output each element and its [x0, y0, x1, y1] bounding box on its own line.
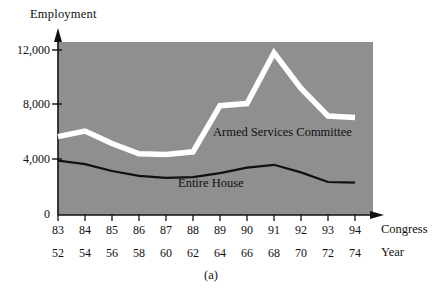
x-tick-year-64: 64 [207, 246, 233, 261]
y-axis [54, 28, 62, 215]
x-tick-year-56: 56 [99, 246, 125, 261]
x-tick-year-54: 54 [72, 246, 98, 261]
x-tick-congress-85: 85 [99, 223, 125, 238]
x-tick-congress-86: 86 [126, 223, 152, 238]
x-tick-year-62: 62 [180, 246, 206, 261]
y-axis-ticks [52, 50, 62, 159]
series-label-entire-house: Entire House [178, 176, 244, 191]
x-axis-ticks [58, 215, 355, 221]
x-tick-year-58: 58 [126, 246, 152, 261]
x-tick-year-66: 66 [234, 246, 260, 261]
x-tick-congress-84: 84 [72, 223, 98, 238]
x-tick-congress-83: 83 [45, 223, 71, 238]
x-tick-year-72: 72 [315, 246, 341, 261]
y-tick-label-12000: 12,000 [0, 43, 50, 58]
x-tick-congress-89: 89 [207, 223, 233, 238]
y-tick-label-8000: 8,000 [0, 97, 50, 112]
figure-container: Employment [0, 0, 440, 294]
x-axis [58, 211, 384, 219]
x-tick-congress-93: 93 [315, 223, 341, 238]
y-tick-label-0: 0 [0, 207, 50, 222]
x-tick-congress-94: 94 [342, 223, 368, 238]
y-tick-label-4000: 4,000 [0, 152, 50, 167]
x-tick-congress-87: 87 [153, 223, 179, 238]
x-tick-year-74: 74 [342, 246, 368, 261]
x-tick-year-70: 70 [288, 246, 314, 261]
x-axis-title-year: Year [381, 245, 404, 260]
x-tick-congress-90: 90 [234, 223, 260, 238]
x-tick-congress-88: 88 [180, 223, 206, 238]
x-tick-year-52: 52 [45, 246, 71, 261]
x-axis-title-congress: Congress [381, 222, 428, 237]
series-label-armed-services: Armed Services Committee [213, 125, 352, 140]
figure-caption: (a) [204, 268, 218, 283]
x-tick-congress-91: 91 [261, 223, 287, 238]
x-tick-congress-92: 92 [288, 223, 314, 238]
x-tick-year-60: 60 [153, 246, 179, 261]
x-tick-year-68: 68 [261, 246, 287, 261]
